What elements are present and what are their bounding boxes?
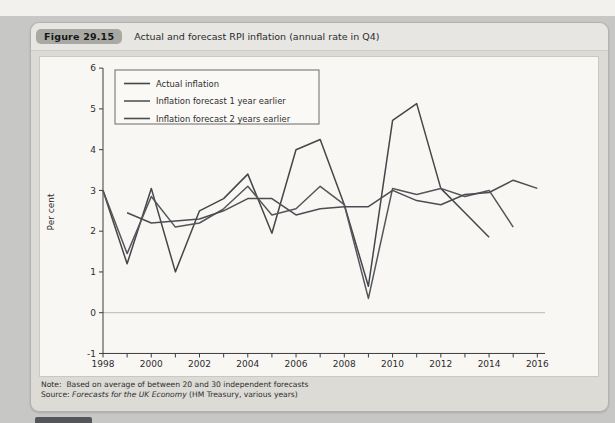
next-figure-badge-partial [35, 417, 92, 423]
series-1-line [103, 104, 489, 287]
note-label: Note: [41, 380, 62, 389]
source-title: Forecasts for the UK Economy [72, 390, 187, 399]
series-2-line [103, 186, 513, 298]
source-rest: (HM Treasury, various years) [187, 390, 298, 399]
legend: Actual inflationInflation forecast 1 yea… [115, 70, 319, 124]
figure-title: Actual and forecast RPI inflation (annua… [134, 31, 379, 42]
y-tick-label: 6 [90, 63, 96, 73]
x-tick-label: 2016 [526, 359, 549, 369]
figure-notes: Note: Based on average of between 20 and… [41, 380, 601, 401]
series-3-line [127, 180, 537, 223]
x-tick-label: 2010 [381, 359, 404, 369]
figure-number-badge: Figure 29.15 [36, 29, 122, 44]
legend-label-1: Actual inflation [156, 79, 219, 89]
page-top-margin [0, 0, 615, 16]
x-tick-label: 2012 [429, 359, 452, 369]
y-axis-label: Per cent [46, 193, 56, 230]
y-tick-label: 1 [90, 267, 96, 277]
chart-area: -101234561998200020022004200620082010201… [39, 56, 599, 377]
y-tick-label: -1 [87, 349, 96, 359]
legend-label-2: Inflation forecast 1 year earlier [156, 96, 286, 106]
x-tick-label: 2006 [285, 359, 308, 369]
source-label: Source: [41, 390, 70, 399]
figure-panel: Figure 29.15 Actual and forecast RPI inf… [30, 22, 609, 412]
y-tick-label: 5 [90, 104, 96, 114]
y-tick-label: 3 [90, 186, 96, 196]
x-tick-label: 2014 [478, 359, 501, 369]
x-tick-label: 2008 [333, 359, 356, 369]
note-line: Note: Based on average of between 20 and… [41, 380, 601, 390]
inflation-line-chart: -101234561998200020022004200620082010201… [40, 57, 598, 376]
note-text: Based on average of between 20 and 30 in… [66, 380, 308, 389]
source-line: Source: Forecasts for the UK Economy (HM… [41, 390, 601, 400]
x-tick-label: 2000 [140, 359, 163, 369]
y-ticks: -10123456 [87, 63, 103, 358]
legend-label-3: Inflation forecast 2 years earlier [156, 114, 291, 124]
x-tick-label: 2002 [188, 359, 211, 369]
y-tick-label: 4 [90, 145, 96, 155]
x-tick-label: 1998 [92, 359, 115, 369]
y-tick-label: 0 [90, 308, 96, 318]
figure-header: Figure 29.15 Actual and forecast RPI inf… [31, 23, 608, 51]
x-ticks: 1998200020022004200620082010201220142016 [92, 353, 550, 369]
x-tick-label: 2004 [236, 359, 259, 369]
y-tick-label: 2 [90, 226, 96, 236]
